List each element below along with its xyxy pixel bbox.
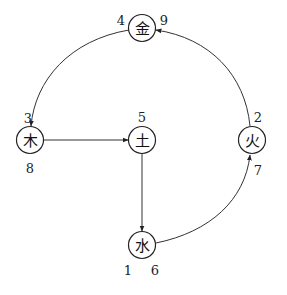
- node-earth: 土5: [129, 110, 156, 154]
- node-label: 木: [23, 132, 38, 150]
- edge-water-to-fire: [156, 155, 250, 243]
- node-label: 金: [135, 20, 150, 38]
- node-number: 2: [254, 110, 262, 125]
- node-metal: 金49: [117, 13, 168, 42]
- node-wood: 木38: [17, 111, 44, 176]
- node-number: 9: [160, 13, 168, 28]
- node-number: 5: [138, 110, 146, 125]
- node-label: 火: [245, 132, 260, 150]
- node-fire: 火27: [239, 110, 266, 178]
- node-number: 4: [117, 13, 125, 28]
- node-number: 3: [24, 111, 32, 126]
- node-number: 6: [151, 263, 159, 278]
- node-label: 水: [135, 237, 150, 255]
- edge-fire-to-metal: [156, 30, 250, 126]
- edge-metal-to-wood: [31, 30, 129, 126]
- node-number: 7: [254, 163, 262, 178]
- node-number: 1: [124, 263, 132, 278]
- five-elements-diagram: 金49木38土5火27水16: [0, 0, 287, 295]
- node-label: 土: [135, 132, 150, 150]
- node-number: 8: [26, 161, 34, 176]
- node-water: 水16: [124, 232, 159, 278]
